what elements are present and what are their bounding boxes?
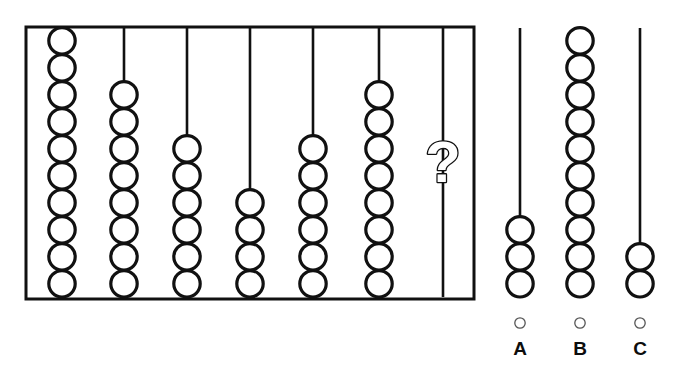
question-mark-icon: ? bbox=[425, 129, 460, 194]
bead bbox=[366, 271, 392, 297]
abacus-rod-1 bbox=[49, 28, 75, 297]
bead bbox=[300, 136, 326, 162]
abacus-rod-2 bbox=[111, 28, 137, 297]
bead bbox=[111, 82, 137, 108]
bead bbox=[567, 55, 593, 81]
bead bbox=[111, 217, 137, 243]
bead bbox=[300, 190, 326, 216]
bead bbox=[174, 244, 200, 270]
bead bbox=[507, 271, 533, 297]
radio-button-C[interactable] bbox=[635, 318, 645, 328]
bead bbox=[111, 109, 137, 135]
choice-label-A: A bbox=[513, 338, 527, 359]
abacus-rod-7: ? bbox=[425, 28, 460, 297]
choice-B-rod bbox=[567, 28, 593, 297]
bead bbox=[49, 136, 75, 162]
bead bbox=[49, 244, 75, 270]
bead bbox=[567, 109, 593, 135]
choice-C-rod bbox=[627, 28, 653, 297]
bead bbox=[300, 244, 326, 270]
bead bbox=[49, 271, 75, 297]
bead bbox=[366, 82, 392, 108]
bead bbox=[366, 109, 392, 135]
bead bbox=[49, 163, 75, 189]
bead bbox=[174, 190, 200, 216]
bead bbox=[49, 28, 75, 54]
bead bbox=[174, 271, 200, 297]
bead bbox=[366, 136, 392, 162]
bead bbox=[366, 163, 392, 189]
bead bbox=[111, 271, 137, 297]
bead bbox=[567, 190, 593, 216]
abacus-pattern-puzzle: ? ABC bbox=[0, 0, 682, 378]
bead bbox=[174, 163, 200, 189]
bead bbox=[567, 271, 593, 297]
abacus-frame: ? bbox=[26, 27, 474, 299]
bead bbox=[627, 244, 653, 270]
bead bbox=[237, 190, 263, 216]
bead bbox=[174, 136, 200, 162]
bead bbox=[366, 217, 392, 243]
bead bbox=[567, 217, 593, 243]
bead bbox=[111, 136, 137, 162]
bead bbox=[111, 244, 137, 270]
bead bbox=[49, 217, 75, 243]
bead bbox=[567, 28, 593, 54]
answer-choice-C[interactable]: C bbox=[627, 28, 653, 359]
bead bbox=[507, 217, 533, 243]
bead bbox=[300, 217, 326, 243]
bead bbox=[174, 217, 200, 243]
bead bbox=[366, 190, 392, 216]
abacus-rod-3 bbox=[174, 28, 200, 297]
bead bbox=[237, 217, 263, 243]
abacus-rod-5 bbox=[300, 28, 326, 297]
answer-choices: ABC bbox=[507, 28, 653, 359]
bead bbox=[300, 271, 326, 297]
answer-choice-B[interactable]: B bbox=[567, 28, 593, 359]
bead bbox=[49, 190, 75, 216]
bead bbox=[49, 82, 75, 108]
bead bbox=[49, 109, 75, 135]
bead bbox=[366, 244, 392, 270]
radio-button-B[interactable] bbox=[575, 318, 585, 328]
bead bbox=[237, 244, 263, 270]
bead bbox=[567, 244, 593, 270]
bead bbox=[507, 244, 533, 270]
bead bbox=[111, 190, 137, 216]
bead bbox=[300, 163, 326, 189]
bead bbox=[567, 82, 593, 108]
bead bbox=[567, 136, 593, 162]
radio-button-A[interactable] bbox=[515, 318, 525, 328]
choice-label-B: B bbox=[573, 338, 587, 359]
choice-label-C: C bbox=[633, 338, 647, 359]
bead bbox=[237, 271, 263, 297]
bead bbox=[627, 271, 653, 297]
choice-A-rod bbox=[507, 28, 533, 297]
bead bbox=[49, 55, 75, 81]
answer-choice-A[interactable]: A bbox=[507, 28, 533, 359]
puzzle-canvas: ? ABC bbox=[0, 0, 682, 378]
bead bbox=[567, 163, 593, 189]
bead bbox=[111, 163, 137, 189]
abacus-rod-6 bbox=[366, 28, 392, 297]
abacus-rod-4 bbox=[237, 28, 263, 297]
